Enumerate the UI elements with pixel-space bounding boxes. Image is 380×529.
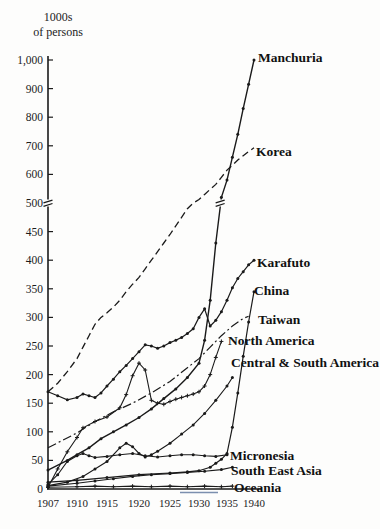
data-point-dot	[186, 332, 189, 335]
data-point-dot	[203, 454, 206, 457]
data-point-dot	[82, 393, 85, 396]
data-point-dot	[150, 473, 153, 476]
data-point-dot	[144, 343, 147, 346]
y-tick-label: 0	[37, 483, 43, 495]
y-tick-label: 150	[26, 397, 44, 409]
data-point-dot	[125, 442, 128, 445]
series-label-karafuto: Karafuto	[257, 256, 310, 270]
data-point-dot	[82, 475, 85, 478]
data-point-dot	[112, 477, 115, 480]
x-tick-label: 1910	[66, 497, 89, 509]
data-point-dot	[236, 391, 239, 394]
data-point-dot	[106, 460, 109, 463]
data-point-dot	[118, 370, 121, 373]
data-point-dot	[180, 453, 183, 456]
data-point-dot	[47, 469, 50, 472]
data-point-dot	[231, 426, 234, 429]
data-point-dot	[138, 416, 141, 419]
data-point-dot	[220, 310, 223, 313]
data-point-dot	[76, 454, 79, 457]
data-point-dot	[131, 475, 134, 478]
x-tick-label: 1920	[128, 497, 151, 509]
x-tick-label: 1907	[37, 497, 60, 509]
data-point-dot	[144, 454, 147, 457]
data-point-dot	[180, 433, 183, 436]
data-point-dot	[209, 299, 212, 302]
y-tick-label: 250	[26, 340, 44, 352]
data-point-dot	[66, 460, 69, 463]
data-point-dot	[220, 458, 223, 461]
data-point-dot	[112, 430, 115, 433]
data-point-dot	[242, 270, 245, 273]
y-tick-label: 350	[26, 283, 44, 295]
data-point-dot	[192, 423, 195, 426]
data-point-dot	[209, 324, 212, 327]
data-point-dot	[214, 455, 217, 458]
data-point-dot	[226, 453, 229, 456]
data-point-dot	[231, 156, 234, 159]
data-point-dot	[156, 450, 159, 453]
y-tick-label: 500	[26, 197, 44, 209]
data-point-dot	[253, 59, 256, 62]
data-point-dot	[203, 470, 206, 473]
data-point-dot	[156, 455, 159, 458]
data-point-dot	[138, 350, 141, 353]
data-point-dot	[118, 453, 121, 456]
data-point-dot	[150, 345, 153, 348]
data-point-dot	[226, 299, 229, 302]
data-point-dot	[76, 396, 79, 399]
data-point-dot	[156, 347, 159, 350]
series-label-manchuria: Manchuria	[258, 51, 323, 65]
chart-plot-area: 0501001502002503003504004505006007008009…	[0, 0, 380, 529]
data-point-dot	[106, 476, 109, 479]
data-point-dot	[162, 345, 165, 348]
data-point-dot	[162, 397, 165, 400]
data-point-dot	[203, 339, 206, 342]
data-point-dot	[174, 387, 177, 390]
data-point-dot	[214, 319, 217, 322]
data-point-dot	[94, 396, 97, 399]
data-point-dot	[131, 445, 134, 448]
y-tick-label: 800	[26, 111, 44, 123]
data-point-dot	[47, 390, 50, 393]
series-label-oceania: Oceania	[234, 481, 281, 495]
series-label-south-east-asia: South East Asia	[231, 464, 322, 478]
data-point-dot	[236, 277, 239, 280]
data-point-dot	[231, 286, 234, 289]
data-point-dot	[88, 446, 91, 449]
data-point-dot	[106, 455, 109, 458]
y-tick-label: 50	[32, 454, 44, 466]
data-point-dot	[66, 481, 69, 484]
data-point-dot	[100, 391, 103, 394]
data-point-dot	[186, 376, 189, 379]
y-tick-label: 400	[26, 254, 44, 266]
series-line-karafuto	[48, 260, 254, 400]
data-point-dot	[88, 394, 91, 397]
data-point-dot	[131, 357, 134, 360]
data-point-dot	[94, 479, 97, 482]
y-tick-label: 100	[26, 426, 44, 438]
x-tick-label: 1935	[216, 497, 239, 509]
data-point-dot	[125, 364, 128, 367]
data-point-dot	[118, 446, 121, 449]
data-point-dot	[186, 471, 189, 474]
data-point-dot	[198, 362, 201, 365]
y-tick-label: 900	[26, 83, 44, 95]
data-point-dot	[214, 462, 217, 465]
data-point-dot	[169, 454, 172, 457]
data-point-dot	[226, 385, 229, 388]
data-point-dot	[198, 316, 201, 319]
data-point-dot	[76, 482, 79, 485]
series-label-china: China	[254, 284, 289, 298]
data-point-dot	[112, 378, 115, 381]
data-point-dot	[150, 407, 153, 410]
y-tick-label: 700	[26, 140, 44, 152]
data-point-dot	[131, 452, 134, 455]
series-label-korea: Korea	[256, 145, 292, 159]
data-point-dot	[94, 456, 97, 459]
data-point-dot	[56, 473, 59, 476]
data-point-dot	[247, 320, 250, 323]
x-tick-label: 1940	[243, 497, 266, 509]
y-tick-label: 300	[26, 311, 44, 323]
data-point-dot	[214, 242, 217, 245]
